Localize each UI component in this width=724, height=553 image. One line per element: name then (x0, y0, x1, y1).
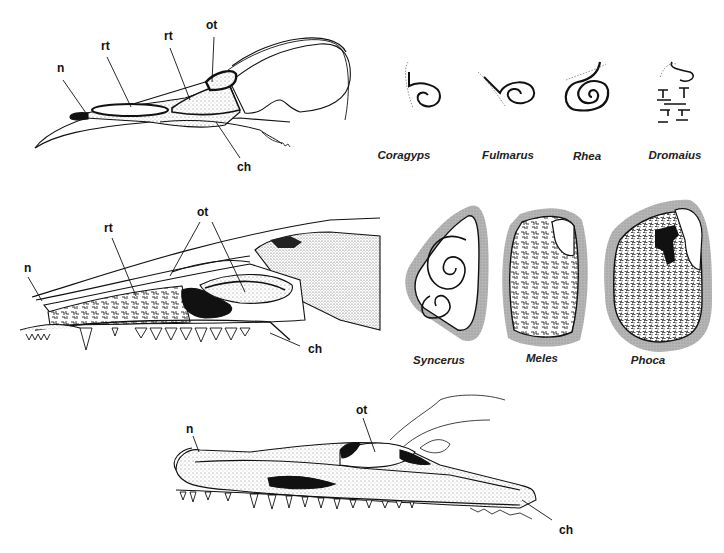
fulmarus-section (478, 72, 534, 107)
bird-label-olfactory-turbinate: ot (206, 19, 217, 31)
croc-label-nostril: n (186, 423, 193, 435)
mammal-label-olfactory-turbinate: ot (197, 206, 208, 218)
mammal-label-choana: ch (308, 343, 322, 355)
bird-label-rostral-turbinate-2: rt (164, 30, 173, 42)
caption-meles: Meles (526, 353, 558, 365)
bird-label-nostril: n (57, 62, 64, 74)
caption-dromaius: Dromaius (648, 150, 701, 162)
phoca-section (604, 200, 712, 352)
mammal-label-nostril: n (24, 262, 31, 274)
caption-fulmarus: Fulmarus (482, 150, 534, 162)
mammal-label-respiratory-turbinate: rt (104, 222, 113, 234)
syncerus-section (405, 205, 488, 341)
figure-artwork (0, 0, 724, 553)
rhea-section (566, 62, 608, 110)
croc-label-olfactory-turbinate: ot (356, 404, 367, 416)
caption-syncerus: Syncerus (413, 355, 465, 367)
mammal-skull-drawing (20, 218, 380, 350)
caption-rhea: Rhea (573, 151, 601, 163)
croc-label-choana: ch (559, 524, 573, 536)
caption-phoca: Phoca (631, 355, 666, 367)
bird-skull-drawing (35, 38, 350, 148)
bird-label-rostral-turbinate-1: rt (101, 40, 110, 52)
meles-section (502, 208, 588, 346)
coragyps-section (406, 62, 440, 108)
caption-coragyps: Coragyps (377, 150, 430, 162)
bird-label-choana: ch (237, 161, 251, 173)
dromaius-section (657, 62, 693, 122)
